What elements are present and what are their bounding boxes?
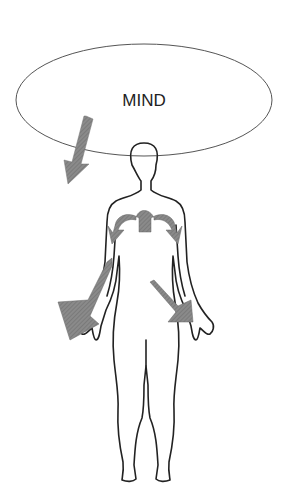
chest-split-arrow (108, 211, 182, 245)
left-arm-arrow (150, 280, 193, 322)
mind-body-diagram: MIND (0, 0, 294, 504)
head-outline (79, 143, 214, 481)
mind-label: MIND (122, 91, 165, 110)
human-figure (79, 143, 214, 481)
right-arm-arrow (58, 258, 112, 340)
mind-to-body-arrow (64, 116, 93, 184)
